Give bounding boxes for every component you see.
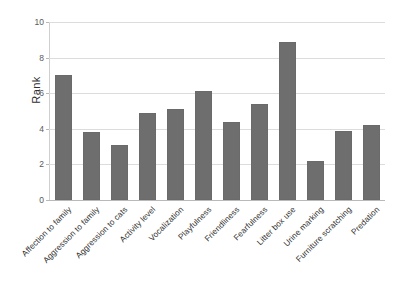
y-tick-label: 4 — [39, 124, 44, 134]
bar — [139, 113, 156, 200]
y-tick-label: 2 — [39, 159, 44, 169]
y-tick-label: 8 — [39, 53, 44, 63]
bar — [223, 122, 240, 200]
bar — [83, 132, 100, 200]
bar — [335, 131, 352, 200]
x-tick-label-text: Predation — [350, 205, 382, 237]
x-tick-label: Aggression to cats — [74, 205, 129, 260]
y-tick-label: 6 — [39, 88, 44, 98]
bar — [111, 145, 128, 200]
x-tick-label-text: Furniture scratching — [294, 205, 353, 264]
x-tick-label-text: Affection to family — [20, 205, 73, 258]
x-tick-label-text: Aggression to cats — [74, 205, 129, 260]
bar — [363, 125, 380, 200]
bar — [307, 161, 324, 200]
bar — [167, 109, 184, 200]
bar — [55, 75, 72, 200]
y-tick-label: 10 — [35, 17, 44, 27]
bar-chart-figure: Rank 0246810 Affection to familyAggressi… — [0, 0, 405, 285]
bar — [279, 42, 296, 200]
bar — [195, 91, 212, 200]
bar — [251, 104, 268, 200]
x-tick-label: Furniture scratching — [294, 205, 353, 264]
x-tick-label: Predation — [350, 205, 382, 237]
plot-area: 0246810 — [49, 22, 385, 200]
bars-layer — [49, 22, 385, 200]
x-tick-label: Affection to family — [20, 205, 73, 258]
x-axis-labels: Affection to familyAggression to familyA… — [49, 201, 405, 285]
y-tick-label: 0 — [39, 195, 44, 205]
